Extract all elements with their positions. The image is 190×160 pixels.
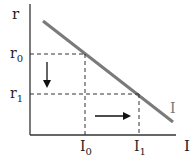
- x-axis-label: I: [184, 137, 190, 155]
- i0-label: I0: [80, 138, 92, 157]
- y-axis-label: r: [12, 5, 20, 23]
- investment-curve: [43, 21, 173, 122]
- r0-label: r0: [10, 45, 23, 64]
- r1-label: r1: [10, 85, 23, 104]
- diagram-canvas: r r0 r1 I0 I1 I I: [0, 0, 190, 160]
- curve-label: I: [170, 100, 176, 116]
- i1-label: I1: [134, 138, 146, 157]
